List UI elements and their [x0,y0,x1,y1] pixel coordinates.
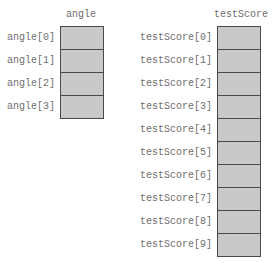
array-cell: angle[3] [60,96,104,119]
cell-label: testScore[1] [140,50,212,72]
array-cell: angle[1] [60,50,104,73]
cell-label: testScore[4] [140,119,212,141]
cell-label: testScore[5] [140,142,212,164]
cell-label: angle[3] [7,96,55,118]
angle-array: angle[0] angle[1] angle[2] angle[3] [60,26,104,119]
array-cell: testScore[6] [217,165,261,188]
array-cell: testScore[9] [217,234,261,257]
angle-array-title: angle [66,9,96,20]
cell-label: testScore[9] [140,234,212,256]
array-cell: angle[0] [60,26,104,50]
cell-label: angle[1] [7,50,55,72]
array-cell: testScore[1] [217,50,261,73]
array-cell: testScore[0] [217,26,261,50]
array-cell: testScore[7] [217,188,261,211]
cell-label: testScore[0] [140,27,212,49]
array-cell: testScore[8] [217,211,261,234]
cell-label: testScore[3] [140,96,212,118]
cell-label: testScore[8] [140,211,212,233]
cell-label: testScore[7] [140,188,212,210]
array-cell: testScore[4] [217,119,261,142]
cell-label: testScore[2] [140,73,212,95]
array-cell: testScore[2] [217,73,261,96]
cell-label: testScore[6] [140,165,212,187]
testscore-array: testScore[0] testScore[1] testScore[2] t… [217,26,261,257]
array-cell: testScore[3] [217,96,261,119]
array-cell: testScore[5] [217,142,261,165]
testscore-array-title: testScore [214,9,268,20]
cell-label: angle[2] [7,73,55,95]
array-cell: angle[2] [60,73,104,96]
cell-label: angle[0] [7,27,55,49]
